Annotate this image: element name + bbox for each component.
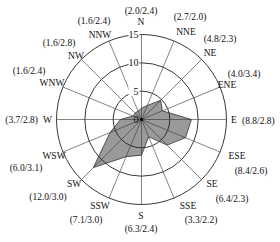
value-annotation-nne: (2.7/2.0): [174, 12, 207, 23]
direction-label-wsw: WSW: [42, 151, 65, 161]
value-annotation-s: (6.3/2.4): [125, 224, 158, 235]
value-annotation-wnw: (1.6/2.4): [13, 66, 46, 77]
origin-label: 0: [134, 114, 139, 125]
wind-rose-chart: N(2.0/2.4)NNE(2.7/2.0)NE(4.8/2.3)ENE(4.0…: [0, 0, 280, 242]
direction-label-ene: ENE: [218, 80, 237, 90]
direction-label-ne: NE: [204, 48, 217, 58]
wind-rose-svg: N(2.0/2.4)NNE(2.7/2.0)NE(4.8/2.3)ENE(4.0…: [0, 0, 280, 242]
value-annotation-e: (8.8/2.8): [242, 116, 275, 127]
value-annotation-ssw: (7.1/3.0): [70, 215, 103, 226]
value-annotation-nw: (1.6/2.8): [43, 38, 76, 49]
value-annotation-ene: (4.0/3.4): [228, 69, 261, 80]
value-annotation-wsw: (6.0/3.1): [10, 163, 43, 174]
direction-label-ese: ESE: [229, 151, 246, 161]
direction-label-nne: NNE: [176, 27, 196, 37]
direction-label-e: E: [231, 115, 237, 125]
value-annotation-n: (2.0/2.4): [125, 6, 158, 17]
direction-label-w: W: [43, 115, 52, 125]
direction-label-n: N: [138, 17, 145, 27]
direction-label-nw: NW: [68, 51, 84, 61]
direction-label-sse: SSE: [180, 201, 197, 211]
direction-label-se: SE: [206, 179, 217, 189]
value-annotation-ne: (4.8/2.3): [204, 34, 237, 45]
value-annotation-nnw: (1.6/2.4): [78, 16, 111, 27]
value-annotation-sse: (3.3/2.2): [185, 215, 218, 226]
value-annotation-se: (6.4/2.3): [216, 194, 249, 205]
direction-label-wnw: WNW: [40, 78, 65, 88]
ring-label: 10: [129, 57, 139, 68]
ring-label: 15: [129, 29, 139, 40]
spoke-line: [109, 41, 142, 120]
direction-label-ssw: SSW: [90, 201, 110, 211]
direction-label-sw: SW: [67, 179, 81, 189]
value-annotation-ese: (8.4/2.6): [235, 166, 268, 177]
origin-dot: [140, 118, 143, 121]
value-annotation-sw: (12.0/3.0): [29, 192, 66, 203]
direction-label-nnw: NNW: [89, 30, 112, 40]
spoke-line: [142, 59, 202, 119]
ring-label: 5: [134, 86, 139, 97]
value-annotation-w: (3.7/2.8): [5, 115, 38, 126]
direction-label-s: S: [138, 211, 143, 221]
